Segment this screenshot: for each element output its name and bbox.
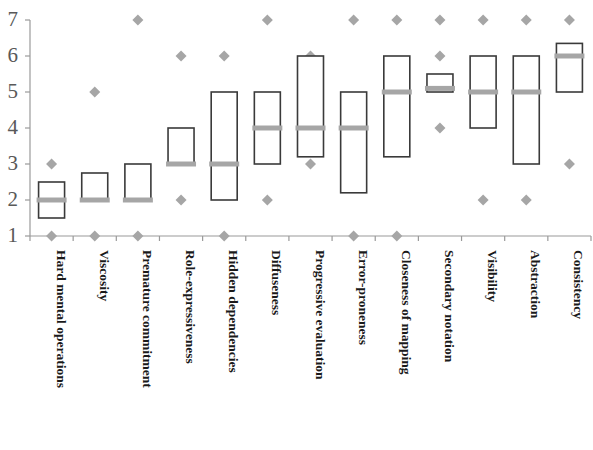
y-tick-label: 4 bbox=[8, 115, 19, 139]
outlier-marker bbox=[434, 51, 445, 62]
outlier-marker bbox=[219, 51, 230, 62]
outlier-marker bbox=[132, 15, 143, 26]
box-plot-series[interactable] bbox=[252, 15, 282, 206]
box-rect[interactable] bbox=[82, 173, 108, 200]
box-plot-series[interactable] bbox=[468, 15, 498, 206]
box-plot-series[interactable] bbox=[425, 15, 455, 134]
box-rect[interactable] bbox=[125, 164, 151, 200]
outlier-marker bbox=[564, 15, 575, 26]
box-plot-series[interactable] bbox=[511, 15, 541, 206]
outlier-marker bbox=[478, 15, 489, 26]
outlier-marker bbox=[46, 231, 57, 242]
outlier-marker bbox=[521, 195, 532, 206]
y-tick-label: 2 bbox=[8, 187, 19, 211]
outlier-marker bbox=[219, 231, 230, 242]
outlier-marker bbox=[391, 15, 402, 26]
outlier-marker bbox=[176, 51, 187, 62]
box-plot-series[interactable] bbox=[123, 15, 153, 242]
outlier-marker bbox=[564, 159, 575, 170]
box-rect[interactable] bbox=[168, 128, 194, 164]
x-category-label: Closeness of mapping bbox=[399, 250, 414, 375]
x-category-label: Diffuseness bbox=[269, 250, 284, 315]
box-plot-series[interactable] bbox=[209, 51, 239, 242]
box-plot-series[interactable] bbox=[554, 15, 584, 170]
x-category-label: Hard mental operations bbox=[54, 250, 69, 388]
outlier-marker bbox=[305, 159, 316, 170]
box-plot-series[interactable] bbox=[339, 15, 369, 242]
x-tick-group bbox=[30, 236, 591, 241]
outlier-marker bbox=[89, 231, 100, 242]
outlier-marker bbox=[132, 231, 143, 242]
x-category-label: Viscosity bbox=[97, 250, 112, 301]
box-plot-series[interactable] bbox=[80, 87, 110, 242]
outlier-marker bbox=[262, 15, 273, 26]
outlier-marker bbox=[176, 195, 187, 206]
x-category-label: Secondary notation bbox=[442, 250, 457, 363]
y-tick-label: 1 bbox=[8, 223, 19, 247]
chart-canvas: 1234567Hard mental operationsViscosityPr… bbox=[0, 0, 593, 450]
x-category-label: Role-expressiveness bbox=[183, 250, 198, 364]
outlier-marker bbox=[89, 87, 100, 98]
outlier-marker bbox=[478, 195, 489, 206]
box-plot-series[interactable] bbox=[296, 51, 326, 170]
box-rect[interactable] bbox=[513, 56, 539, 164]
x-category-label: Error-proneness bbox=[356, 250, 371, 345]
outlier-marker bbox=[391, 231, 402, 242]
y-tick-label: 3 bbox=[8, 151, 19, 175]
y-tick-group: 1234567 bbox=[8, 7, 31, 247]
outlier-marker bbox=[46, 159, 57, 170]
x-category-label: Visibility bbox=[485, 250, 500, 302]
box-plot-chart: 1234567Hard mental operationsViscosityPr… bbox=[0, 0, 593, 450]
box-rect[interactable] bbox=[211, 92, 237, 200]
box-plot-series[interactable] bbox=[37, 159, 67, 242]
outlier-marker bbox=[348, 231, 359, 242]
x-category-label: Hidden dependencies bbox=[226, 250, 241, 373]
outlier-marker bbox=[434, 15, 445, 26]
x-category-label: Consistency bbox=[571, 250, 586, 319]
outlier-marker bbox=[262, 195, 273, 206]
box-plot-series[interactable] bbox=[382, 15, 412, 242]
x-category-label: Abstraction bbox=[528, 250, 543, 319]
outlier-marker bbox=[434, 123, 445, 134]
y-tick-label: 5 bbox=[8, 79, 19, 103]
x-category-label: Progressive evaluation bbox=[313, 250, 328, 380]
y-tick-label: 7 bbox=[8, 7, 19, 31]
outlier-marker bbox=[521, 15, 532, 26]
x-category-label: Premature commitment bbox=[140, 250, 155, 388]
box-rect[interactable] bbox=[298, 56, 324, 157]
y-tick-label: 6 bbox=[8, 43, 19, 67]
box-plot-series[interactable] bbox=[166, 51, 196, 206]
outlier-marker bbox=[348, 15, 359, 26]
box-rect[interactable] bbox=[341, 92, 367, 193]
box-rect[interactable] bbox=[384, 56, 410, 157]
box-rect[interactable] bbox=[556, 43, 582, 92]
